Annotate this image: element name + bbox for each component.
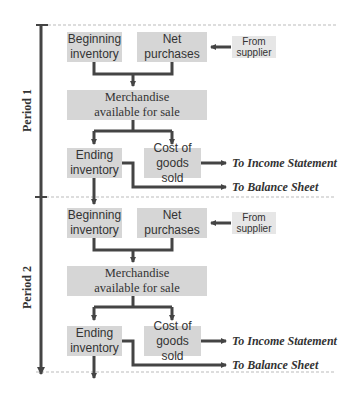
beginning-inventory-box: Beginning inventory — [67, 208, 122, 238]
from-supplier-box: From supplier — [232, 36, 276, 58]
to-balance-sheet-label: To Balance Sheet — [232, 358, 318, 373]
ending-inventory-box: Ending inventory — [67, 326, 122, 356]
beginning-inventory-box: Beginning inventory — [67, 32, 122, 62]
net-purchases-box: Net purchases — [137, 32, 207, 62]
cost-of-goods-sold-box: Cost of goods sold — [144, 148, 201, 178]
to-income-statement-label: To Income Statement — [232, 156, 337, 171]
ending-inventory-box: Ending inventory — [67, 148, 122, 178]
to-income-statement-label: To Income Statement — [232, 334, 337, 349]
period-2-label: Period 2 — [20, 263, 35, 313]
period-1-label: Period 1 — [20, 86, 35, 136]
to-balance-sheet-label: To Balance Sheet — [232, 180, 318, 195]
net-purchases-box: Net purchases — [137, 208, 207, 238]
merchandise-available-box: Merchandise available for sale — [67, 266, 207, 296]
from-supplier-box: From supplier — [232, 212, 276, 234]
cost-of-goods-sold-box: Cost of goods sold — [144, 326, 201, 356]
merchandise-available-box: Merchandise available for sale — [67, 90, 207, 120]
